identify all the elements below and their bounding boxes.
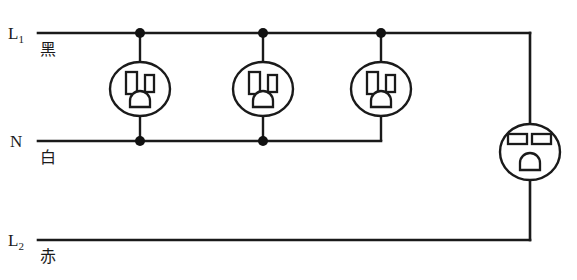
outlet-2-ground-slot [253, 91, 273, 107]
outlet-3-neutral-slot [367, 72, 378, 94]
color-label-black: 黑 [40, 42, 56, 58]
wiring-schematic-canvas [0, 0, 577, 280]
outlet-3-hot-slot [386, 75, 395, 92]
junction-dot-n-outlet1 [135, 136, 145, 146]
outlet-3-ground-slot [371, 91, 391, 107]
outlet-4-ground-slot [520, 153, 540, 170]
junction-dot-l1-outlet2 [258, 28, 268, 38]
rail-label-l2-subscript: 2 [19, 240, 25, 252]
rail-label-l1: L1 [8, 25, 24, 45]
rail-label-l1-text: L [8, 24, 19, 43]
outlet-2-group [233, 33, 293, 141]
outlet-3-group [351, 33, 411, 141]
outlet-1-ground-slot [130, 91, 150, 107]
rail-label-l2: L2 [8, 232, 24, 252]
rail-label-l1-subscript: 1 [19, 33, 25, 45]
junction-dot-l1-outlet1 [135, 28, 145, 38]
color-label-white: 白 [40, 150, 56, 166]
outlet-4-group [500, 124, 560, 180]
outlet-4-hot1-slot [508, 134, 527, 144]
junction-dot-l1-outlet3 [376, 28, 386, 38]
outlet-4-hot2-slot [532, 134, 551, 144]
wiring-diagram: L1 黑 N 白 L2 赤 [0, 0, 577, 280]
rail-label-n: N [10, 133, 22, 153]
outlet-1-group [110, 33, 170, 141]
junction-dot-n-outlet2 [258, 136, 268, 146]
outlet-1-neutral-slot [126, 72, 137, 94]
outlet-2-neutral-slot [249, 72, 260, 94]
rail-label-n-text: N [10, 132, 22, 151]
outlet-2-hot-slot [268, 75, 277, 92]
outlet-1-hot-slot [145, 75, 154, 92]
rail-label-l2-text: L [8, 231, 19, 250]
color-label-red: 赤 [40, 249, 56, 265]
